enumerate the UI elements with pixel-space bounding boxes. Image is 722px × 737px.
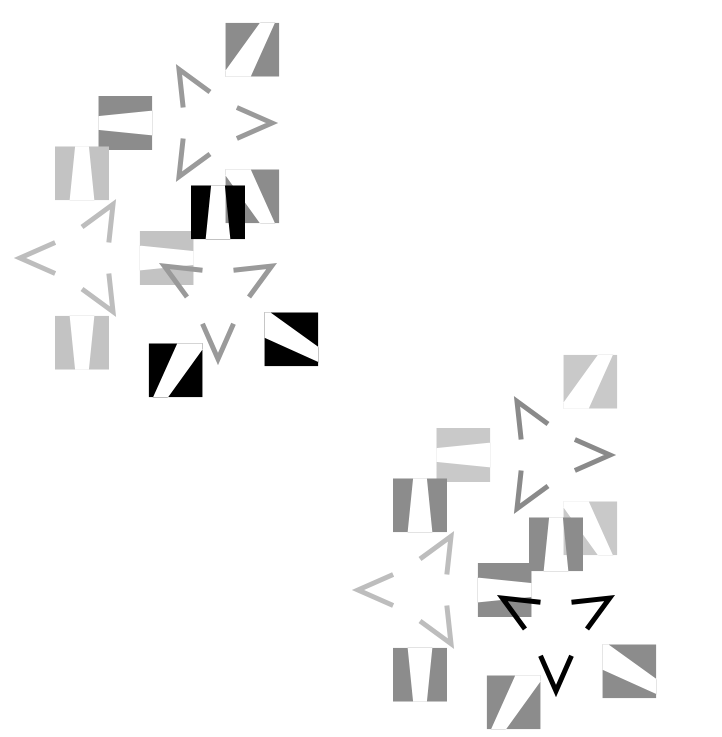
- figure-canvas-container: Illusory contour star figures: [0, 0, 722, 737]
- illusory-star-figure: Illusory contour star figures: [0, 0, 722, 737]
